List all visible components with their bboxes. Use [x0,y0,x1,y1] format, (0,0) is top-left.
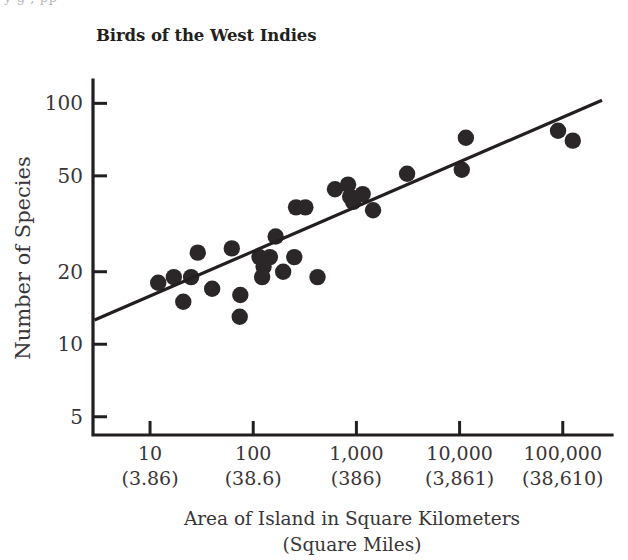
figure-container: y g , pp Birds of the West Indies 100502… [0,0,628,560]
x-tick-label-100: 100 [235,442,271,464]
axis-lines [93,80,612,435]
data-point [232,287,248,303]
x-axis-ticks: 10(3.86)100(38.6)1,000(386)10,000(3,861)… [121,421,603,489]
data-point [190,244,206,260]
x-tick-label-1,000: 1,000 [329,442,383,464]
x-tick-sublabel-1,000: (386) [331,467,382,489]
data-point [175,294,191,310]
x-tick-sublabel-10: (3.86) [121,467,178,489]
y-tick-label-10: 10 [58,332,83,356]
x-tick-sublabel-10,000: (3,861) [425,467,494,489]
data-point [309,269,325,285]
y-tick-label-100: 100 [45,91,83,115]
y-tick-label-20: 20 [58,260,83,284]
data-point [297,199,313,215]
data-point [254,269,270,285]
scatter-plot: 1005020105 10(3.86)100(38.6)1,000(386)10… [0,0,628,560]
data-point [550,122,566,138]
x-tick-sublabel-100: (38.6) [225,467,282,489]
x-tick-label-10: 10 [138,442,162,464]
x-tick-label-10,000: 10,000 [426,442,492,464]
data-point [204,281,220,297]
data-points [150,122,581,324]
data-point [262,249,278,265]
regression-line [95,100,602,320]
axes-group [93,80,612,435]
data-point [399,166,415,182]
data-point [224,240,240,256]
y-tick-label-5: 5 [70,405,83,429]
x-tick-sublabel-100,000: (38,610) [522,467,603,489]
x-axis-label: Area of Island in Square Kilometers [183,508,520,529]
y-tick-label-50: 50 [58,164,83,188]
y-axis-ticks: 1005020105 [45,91,107,428]
data-point [365,202,381,218]
data-point [275,264,291,280]
y-axis-label: Number of Species [11,156,35,359]
data-point [232,309,248,325]
data-point [286,249,302,265]
x-axis-sublabel: (Square Miles) [283,534,422,555]
x-tick-label-100,000: 100,000 [523,442,602,464]
data-point [565,132,581,148]
data-point [458,130,474,146]
